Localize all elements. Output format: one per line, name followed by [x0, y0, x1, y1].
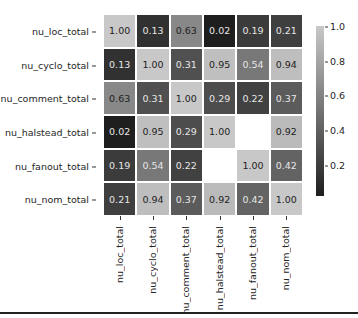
divider-line — [0, 312, 358, 314]
colorbar-tick-label: 0.8 — [325, 55, 345, 66]
y-axis-label: nu_halstead_total — [5, 126, 96, 137]
heatmap-cell: 0.92 — [270, 115, 303, 149]
colorbar-tick-label: 1.0 — [325, 21, 345, 32]
y-axis-label: nu_loc_total — [32, 25, 96, 36]
y-axis-label: nu_comment_total — [1, 93, 96, 104]
heatmap-cell — [203, 149, 236, 183]
x-axis-tick — [153, 216, 154, 220]
heatmap-cell: 0.21 — [103, 182, 136, 216]
x-axis-label: nu_loc_total — [114, 226, 125, 283]
heatmap-cell: 0.42 — [236, 182, 269, 216]
heatmap-cell: 0.63 — [170, 14, 203, 48]
heatmap-cell: 0.42 — [270, 149, 303, 183]
heatmap-cell: 0.92 — [203, 182, 236, 216]
x-axis-label: nu_halstead_total — [214, 226, 225, 310]
x-axis-label: nu_comment_total — [180, 226, 191, 314]
x-axis-tick — [186, 216, 187, 220]
heatmap-cell: 0.63 — [103, 81, 136, 115]
heatmap-cell: 0.54 — [236, 48, 269, 82]
heatmap-cell: 0.21 — [270, 14, 303, 48]
heatmap-cell: 0.19 — [103, 149, 136, 183]
colorbar-tick-label: 0.6 — [325, 90, 345, 101]
heatmap-cell: 0.13 — [136, 14, 169, 48]
heatmap-cell: 0.22 — [170, 149, 203, 183]
heatmap-cell: 1.00 — [170, 81, 203, 115]
heatmap-cell: 0.22 — [236, 81, 269, 115]
heatmap-cell: 0.37 — [170, 182, 203, 216]
heatmap-cell — [236, 115, 269, 149]
y-axis-label: nu_nom_total — [25, 194, 96, 205]
heatmap-cell: 0.94 — [270, 48, 303, 82]
heatmap-cell: 0.37 — [270, 81, 303, 115]
heatmap-cell: 0.95 — [136, 115, 169, 149]
heatmap-cell: 1.00 — [136, 48, 169, 82]
x-axis-tick — [120, 216, 121, 220]
y-axis-label: nu_cyclo_total — [21, 59, 96, 70]
heatmap-cell: 0.29 — [203, 81, 236, 115]
x-axis-label: nu_fanout_total — [247, 226, 258, 300]
x-axis-tick — [253, 216, 254, 220]
heatmap-cell: 0.95 — [203, 48, 236, 82]
heatmap-cell: 0.31 — [136, 81, 169, 115]
heatmap-cell: 0.13 — [103, 48, 136, 82]
heatmap-cell: 0.94 — [136, 182, 169, 216]
heatmap-cell: 1.00 — [236, 149, 269, 183]
heatmap-cell: 0.19 — [236, 14, 269, 48]
heatmap-cell: 0.31 — [170, 48, 203, 82]
heatmap-cell: 1.00 — [203, 115, 236, 149]
heatmap-cell: 0.29 — [170, 115, 203, 149]
heatmap-cell: 0.02 — [103, 115, 136, 149]
x-axis-tick — [220, 216, 221, 220]
heatmap-cell: 1.00 — [103, 14, 136, 48]
heatmap-cell: 0.54 — [136, 149, 169, 183]
heatmap-grid: 1.000.130.630.020.190.210.131.000.310.95… — [103, 14, 303, 216]
y-axis-label: nu_fanout_total — [15, 160, 96, 171]
x-axis-label: nu_cyclo_total — [147, 226, 158, 294]
heatmap-cell: 0.02 — [203, 14, 236, 48]
colorbar-tick-label: 0.4 — [325, 125, 345, 136]
colorbar — [316, 26, 324, 196]
colorbar-tick-label: 0.2 — [325, 159, 345, 170]
x-axis-tick — [286, 216, 287, 220]
x-axis-label: nu_nom_total — [280, 226, 291, 290]
heatmap-cell: 1.00 — [270, 182, 303, 216]
